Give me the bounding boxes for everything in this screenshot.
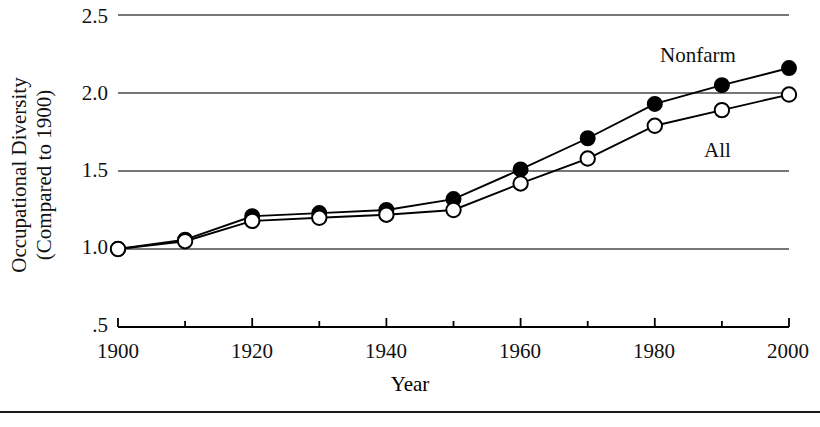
datapoint-all-1930	[312, 211, 326, 225]
datapoint-nonfarm-1970	[581, 131, 595, 145]
figure-bottom-rule	[0, 411, 820, 413]
datapoint-nonfarm-1990	[715, 78, 729, 92]
series-layer	[111, 61, 796, 256]
datapoint-all-1920	[245, 214, 259, 228]
datapoint-nonfarm-2000	[782, 61, 796, 75]
datapoint-all-1900	[111, 242, 125, 256]
datapoint-all-1980	[648, 119, 662, 133]
datapoint-nonfarm-1960	[513, 162, 527, 176]
datapoint-all-2000	[782, 87, 796, 101]
x-axis-ticks	[118, 318, 789, 327]
datapoint-all-1940	[379, 207, 393, 221]
datapoint-all-1960	[513, 176, 527, 190]
datapoint-nonfarm-1980	[648, 97, 662, 111]
chart-figure: Occupational Diversity (Compared to 1900…	[0, 0, 820, 427]
datapoint-all-1990	[715, 103, 729, 117]
datapoint-all-1950	[446, 203, 460, 217]
plot-area	[0, 0, 820, 427]
datapoint-all-1910	[178, 234, 192, 248]
series-line-nonfarm	[118, 68, 789, 249]
datapoint-all-1970	[581, 151, 595, 165]
